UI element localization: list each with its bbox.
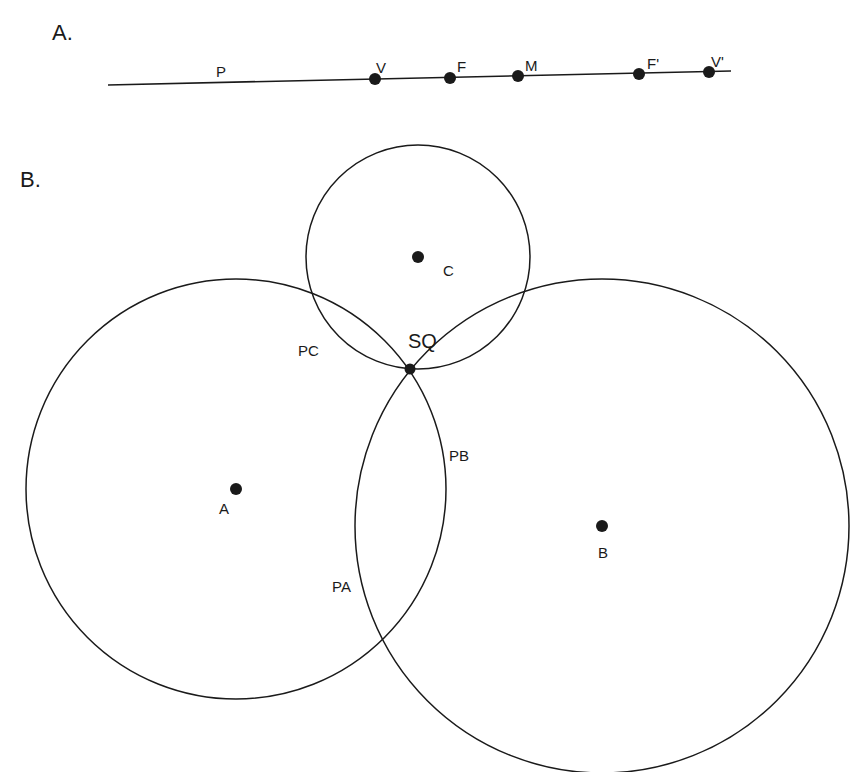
circles: CAB <box>26 145 849 772</box>
diagram-canvas: A. P VFMF'V' B. CAB SQ PCPBPA <box>0 0 861 772</box>
point-v-prime-label: V' <box>711 53 724 70</box>
center-c-dot <box>412 251 424 263</box>
center-b-label: B <box>598 544 608 561</box>
point-v-label: V <box>376 59 386 76</box>
arc-labels: PCPBPA <box>298 342 469 595</box>
arc-label-pa: PA <box>332 578 351 595</box>
center-c-label: C <box>443 262 454 279</box>
panel-a-label: A. <box>52 20 73 45</box>
center-b-dot <box>596 520 608 532</box>
axis-label-p: P <box>216 63 226 80</box>
point-f-prime-dot <box>633 68 645 80</box>
sq-dot <box>405 364 416 375</box>
point-f-prime-label: F' <box>647 55 659 72</box>
arc-label-pc: PC <box>298 342 319 359</box>
point-f-dot <box>444 72 456 84</box>
panel-b-label: B. <box>20 167 41 192</box>
point-f-label: F <box>457 58 466 75</box>
panel-a: A. P VFMF'V' <box>52 20 731 85</box>
axis-points: VFMF'V' <box>369 53 724 85</box>
arc-label-pb: PB <box>449 447 469 464</box>
panel-b: B. CAB SQ PCPBPA <box>20 145 849 772</box>
sq-label: SQ <box>408 330 437 352</box>
point-m-dot <box>512 70 524 82</box>
center-a-label: A <box>219 500 229 517</box>
center-a-dot <box>230 483 242 495</box>
point-m-label: M <box>525 57 538 74</box>
